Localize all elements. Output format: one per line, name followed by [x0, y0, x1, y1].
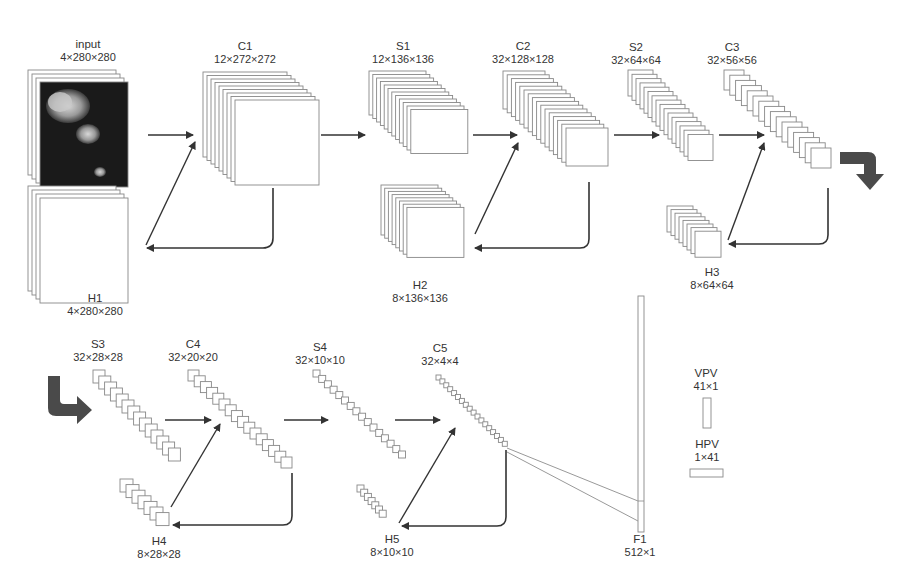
stack-s2	[628, 70, 713, 161]
stack-s4	[313, 370, 406, 458]
label-h1: H14×280×280	[67, 292, 123, 318]
stack-h4	[120, 479, 169, 526]
stack-h1	[28, 186, 128, 303]
layer-name: F1	[625, 533, 656, 546]
vector-layers	[638, 296, 723, 532]
vector-f1	[638, 296, 644, 532]
flow-arrows	[48, 152, 884, 424]
arrow-h3-to-c3	[728, 143, 764, 240]
layer-name: H4	[137, 535, 180, 548]
layer-name: C3	[707, 41, 757, 54]
layer-dims: 512×1	[625, 546, 656, 559]
layer-dims: 8×64×64	[690, 279, 733, 292]
label-vpv: VPV41×1	[694, 367, 719, 393]
cnn-architecture-diagram	[0, 0, 904, 584]
layer-name: C4	[168, 338, 218, 351]
arrow-c5-to-h5	[402, 450, 506, 526]
vector-hpv	[690, 469, 723, 477]
layer-dims: 32×28×28	[73, 351, 123, 364]
layer-name: input	[60, 38, 116, 51]
stack-s1	[369, 71, 468, 154]
layer-name: C5	[421, 342, 458, 355]
layer-name: HPV	[695, 438, 720, 451]
arrow-c4-to-h4	[173, 473, 292, 525]
layer-dims: 12×272×272	[214, 53, 276, 66]
layer-name: H2	[392, 279, 448, 292]
c5-to-f1-connector	[507, 448, 638, 521]
layer-dims: 12×136×136	[372, 53, 434, 66]
label-s4: S432×10×10	[295, 341, 345, 367]
arrow-c1-to-h1	[147, 188, 273, 248]
label-c1: C112×272×272	[214, 40, 276, 66]
layer-dims: 4×280×280	[67, 305, 123, 318]
label-h5: H58×10×10	[370, 533, 413, 559]
stack-s3	[93, 370, 180, 461]
wrap-down-arrow-icon	[840, 152, 884, 190]
stack-c4	[188, 370, 292, 468]
layer-dims: 32×4×4	[421, 355, 458, 368]
layer-dims: 41×1	[694, 380, 719, 393]
label-c5: C532×4×4	[421, 342, 458, 368]
stack-c5	[436, 375, 507, 446]
layer-name: C1	[214, 40, 276, 53]
layer-name: VPV	[694, 367, 719, 380]
layer-dims: 4×280×280	[60, 51, 116, 64]
layer-dims: 1×41	[695, 451, 720, 464]
label-h3: H38×64×64	[690, 266, 733, 292]
label-c3: C332×56×56	[707, 41, 757, 67]
label-h2: H28×136×136	[392, 279, 448, 305]
label-s2: S232×64×64	[611, 41, 661, 67]
stack-c1	[203, 72, 319, 185]
stack-c2	[503, 71, 608, 166]
label-c2: C232×128×128	[492, 40, 554, 66]
arrow-c2-to-h2	[475, 182, 589, 248]
arrows	[146, 135, 828, 526]
stack-h3	[667, 206, 721, 257]
layer-dims: 32×64×64	[611, 54, 661, 67]
stack-c3	[724, 70, 831, 168]
layer-dims: 32×20×20	[168, 351, 218, 364]
layer-dims: 8×28×28	[137, 548, 180, 561]
label-h4: H48×28×28	[137, 535, 180, 561]
arrow-h1-to-c1	[146, 142, 195, 245]
arrow-h2-to-c2	[475, 143, 518, 234]
stack-h5	[357, 485, 386, 517]
stack-input	[28, 70, 128, 187]
layer-dims: 8×10×10	[370, 546, 413, 559]
stack-h2	[381, 185, 464, 257]
wrap-right-arrow-icon	[48, 376, 92, 424]
layer-name: H1	[67, 292, 123, 305]
layer-name: S1	[372, 40, 434, 53]
layer-dims: 32×10×10	[295, 354, 345, 367]
label-hpv: HPV1×41	[695, 438, 720, 464]
label-input: input4×280×280	[60, 38, 116, 64]
layer-dims: 32×56×56	[707, 54, 757, 67]
layer-name: H3	[690, 266, 733, 279]
arrow-h5-to-c5	[399, 428, 455, 523]
layer-dims: 8×136×136	[392, 292, 448, 305]
layer-name: H5	[370, 533, 413, 546]
label-s1: S112×136×136	[372, 40, 434, 66]
layer-name: C2	[492, 40, 554, 53]
layer-name: S3	[73, 338, 123, 351]
layer-name: S4	[295, 341, 345, 354]
layer-dims: 32×128×128	[492, 53, 554, 66]
vector-vpv	[703, 398, 711, 428]
arrow-h4-to-c4	[171, 424, 220, 507]
label-s3: S332×28×28	[73, 338, 123, 364]
label-f1: F1512×1	[625, 533, 656, 559]
layer-name: S2	[611, 41, 661, 54]
label-c4: C432×20×20	[168, 338, 218, 364]
